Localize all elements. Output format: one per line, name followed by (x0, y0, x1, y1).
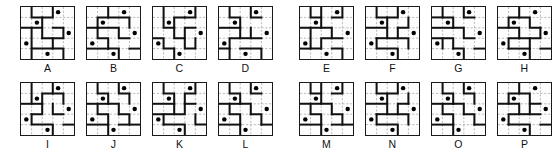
gridlines (21, 7, 74, 59)
marker-dot (324, 52, 328, 56)
panel-label: P (521, 138, 528, 150)
maze-path-group (498, 83, 551, 135)
marker-dot (314, 20, 318, 24)
maze-panel: G (429, 6, 488, 74)
maze-path-group (432, 83, 485, 135)
marker-dot (401, 86, 405, 90)
marker-dot (233, 96, 237, 100)
maze-path (321, 38, 332, 48)
maze-grid (431, 82, 486, 136)
marker-dot (188, 86, 192, 90)
marker-dot (512, 96, 516, 100)
maze-path (53, 104, 64, 114)
marker-dot (156, 41, 160, 45)
maze-path-group (300, 7, 342, 59)
marker-dot (264, 107, 268, 111)
marker-dot (198, 31, 202, 35)
maze-panel: O (429, 82, 488, 150)
maze-svg (366, 7, 419, 59)
maze-path-group (87, 83, 140, 135)
panel-row-bottom: IJKL MNOP (0, 82, 548, 150)
marker-dot (90, 41, 94, 45)
marker-dot (369, 41, 373, 45)
marker-dot (533, 10, 537, 14)
marker-dot (335, 10, 339, 14)
marker-dot (56, 86, 60, 90)
marker-dot (380, 96, 384, 100)
gridlines (300, 7, 353, 59)
panel-label: H (521, 62, 529, 74)
maze-svg (219, 7, 272, 59)
marker-dot (111, 52, 115, 56)
maze-path (53, 93, 64, 103)
marker-dot (188, 10, 192, 14)
marker-dot (467, 10, 471, 14)
maze-panel: P (495, 82, 554, 150)
marker-dot (345, 31, 349, 35)
marker-dot (101, 20, 105, 24)
gridlines (21, 83, 74, 135)
maze-path (311, 83, 322, 93)
gridlines (153, 7, 206, 59)
panel-label: M (322, 138, 331, 150)
maze-path (321, 104, 332, 114)
maze-path-group (300, 83, 353, 135)
maze-panel: K (150, 82, 209, 150)
maze-path (251, 114, 262, 124)
maze-grid (218, 82, 273, 136)
marker-dot (132, 107, 136, 111)
marker-dot (156, 117, 160, 121)
panel-group-top-right: EFGH (297, 6, 554, 74)
maze-grid (431, 6, 486, 60)
marker-dot (222, 117, 226, 121)
maze-path (332, 114, 343, 124)
panel-label: D (242, 62, 250, 74)
marker-dot (522, 128, 526, 132)
maze-grid (365, 6, 420, 60)
marker-dot (543, 31, 547, 35)
maze-panel: C (150, 6, 209, 74)
maze-svg (21, 83, 74, 135)
marker-dot (324, 128, 328, 132)
maze-grid (20, 6, 75, 60)
gridlines (87, 83, 140, 135)
maze-svg (87, 83, 140, 135)
maze-panel: M (297, 82, 356, 150)
gridlines (153, 83, 206, 135)
maze-path (230, 28, 241, 49)
gridlines (366, 7, 419, 59)
marker-dot (243, 52, 247, 56)
maze-path (108, 104, 119, 114)
maze-grid (497, 6, 552, 60)
maze-grid (365, 82, 420, 136)
maze-path (509, 104, 520, 125)
maze-panel: H (495, 6, 554, 74)
marker-dot (390, 128, 394, 132)
panel-row-top: ABCD EFGH (0, 6, 548, 74)
maze-path (240, 104, 251, 114)
maze-panel: L (216, 82, 275, 150)
marker-dot (233, 20, 237, 24)
maze-path-group (432, 7, 485, 59)
maze-path (42, 28, 63, 38)
marker-dot (345, 107, 349, 111)
gridlines (432, 7, 485, 59)
marker-dot (24, 117, 28, 121)
maze-path (519, 17, 540, 27)
marker-dot (66, 107, 70, 111)
panel-label: A (44, 62, 51, 74)
maze-svg (366, 83, 419, 135)
maze-path (398, 17, 409, 27)
maze-path (464, 114, 475, 124)
marker-dot (90, 117, 94, 121)
marker-dot (477, 107, 481, 111)
maze-svg (498, 7, 551, 59)
maze-path (519, 93, 540, 103)
marker-dot (335, 86, 339, 90)
maze-panel: B (84, 6, 143, 74)
maze-path (519, 38, 530, 48)
marker-dot (35, 96, 39, 100)
gridlines (219, 7, 272, 59)
marker-dot (243, 128, 247, 132)
